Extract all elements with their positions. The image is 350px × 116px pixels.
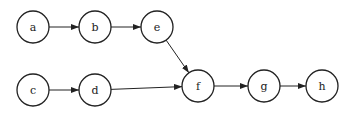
graph-canvas: abecdfgh: [0, 0, 350, 116]
node-label: c: [30, 84, 36, 97]
node-label: a: [30, 21, 37, 34]
edge-e-f: [166, 40, 189, 73]
node-d: d: [79, 74, 111, 106]
node-b: b: [79, 11, 111, 43]
node-label: e: [154, 21, 161, 34]
edge-d-f: [111, 87, 182, 90]
node-a: a: [17, 11, 49, 43]
node-c: c: [17, 74, 49, 106]
node-e: e: [141, 11, 173, 43]
node-label: h: [318, 80, 325, 93]
node-h: h: [306, 70, 338, 102]
graph-diagram: abecdfgh: [0, 0, 350, 116]
node-label: b: [91, 21, 98, 34]
node-label: d: [91, 84, 98, 97]
node-f: f: [182, 70, 214, 102]
node-g: g: [248, 70, 280, 102]
node-label: g: [260, 80, 267, 93]
